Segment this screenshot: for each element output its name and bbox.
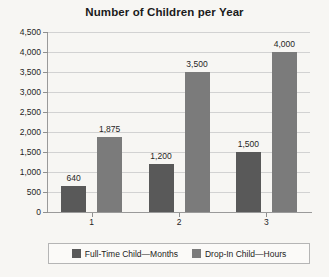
legend-label: Drop-In Child—Hours [205, 249, 286, 259]
y-axis-tick-mark [43, 212, 48, 213]
bar-1-series-0 [61, 186, 86, 212]
y-axis-tick-mark [43, 192, 48, 193]
bar-2-series-1 [185, 72, 210, 212]
x-axis-line [44, 212, 312, 213]
y-axis-tick-label: 2,500 [1, 108, 41, 117]
bar-2-series-0 [149, 164, 174, 212]
gridline [48, 32, 310, 33]
bar-chart: Number of Children per Year 05001,0001,5… [0, 0, 329, 277]
bar-3-series-1 [272, 52, 297, 212]
gridline [48, 132, 310, 133]
y-axis-tick-mark [43, 112, 48, 113]
gridline [48, 172, 310, 173]
y-axis-tick-label: 1,500 [1, 148, 41, 157]
bar-value-label: 4,000 [264, 40, 305, 49]
legend-swatch-icon [192, 249, 201, 258]
bar-value-label: 1,200 [141, 152, 182, 161]
y-axis-tick-label: 4,500 [1, 28, 41, 37]
legend-entry-1: Drop-In Child—Hours [192, 249, 286, 259]
y-axis-tick-label: 3,000 [1, 88, 41, 97]
y-axis-tick-label: 500 [1, 188, 41, 197]
gridline [48, 72, 310, 73]
legend-entry-0: Full-Time Child—Months [72, 249, 178, 259]
y-axis-tick-label: 4,000 [1, 48, 41, 57]
gridline [48, 52, 310, 53]
y-axis-tick-mark [43, 72, 48, 73]
bar-3-series-0 [236, 152, 261, 212]
x-axis-tick-label: 3 [251, 218, 281, 227]
bar-1-series-1 [97, 137, 122, 212]
bar-value-label: 1,875 [89, 125, 130, 134]
gridline [48, 192, 310, 193]
y-axis-tick-mark [43, 52, 48, 53]
gridline [48, 92, 310, 93]
y-axis-tick-mark [43, 152, 48, 153]
y-axis-tick-label: 3,500 [1, 68, 41, 77]
y-axis-tick-mark [43, 132, 48, 133]
gridline [48, 112, 310, 113]
bar-value-label: 640 [53, 174, 94, 183]
x-axis-tick-label: 1 [77, 218, 107, 227]
chart-legend: Full-Time Child—MonthsDrop-In Child—Hour… [48, 243, 310, 264]
legend-swatch-icon [72, 249, 81, 258]
y-axis-tick-label: 1,000 [1, 168, 41, 177]
plot-area: 6401,8751,2003,5001,5004,000 [48, 32, 310, 212]
y-axis-tick-labels: 05001,0001,5002,0002,5003,0003,5004,0004… [0, 32, 41, 213]
y-axis-tick-label: 0 [1, 208, 41, 217]
bar-value-label: 3,500 [177, 60, 218, 69]
bar-value-label: 1,500 [228, 140, 269, 149]
x-axis-tick-label: 2 [164, 218, 194, 227]
y-axis-tick-mark [43, 32, 48, 33]
y-axis-tick-mark [43, 172, 48, 173]
y-axis-tick-mark [43, 92, 48, 93]
y-axis-tick-label: 2,000 [1, 128, 41, 137]
legend-label: Full-Time Child—Months [85, 249, 178, 259]
chart-title: Number of Children per Year [0, 6, 329, 18]
